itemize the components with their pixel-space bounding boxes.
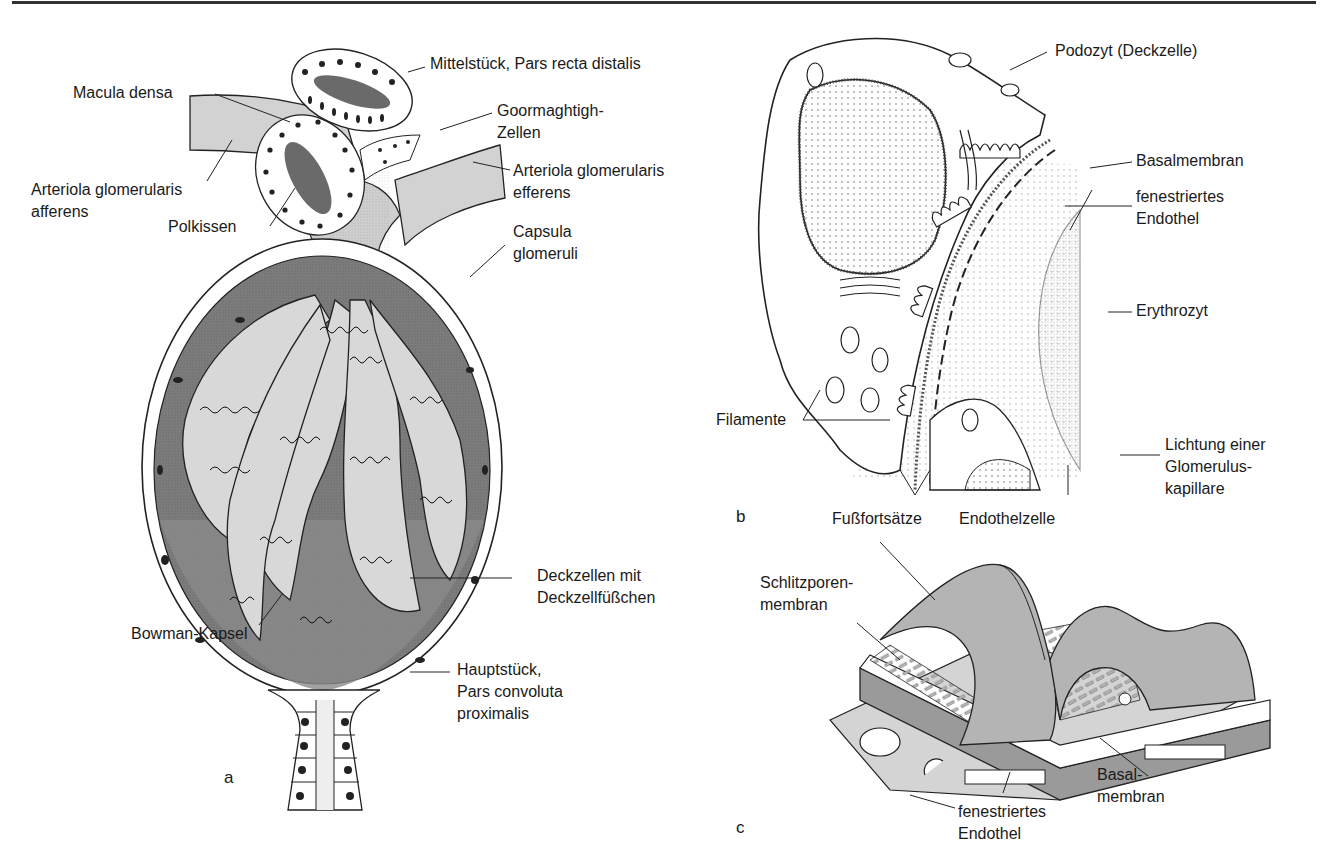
panel-c-filtration-barrier bbox=[830, 542, 1270, 808]
label-endothelzelle: Endothelzelle bbox=[959, 510, 1055, 528]
label-capsula-line2: glomeruli bbox=[513, 245, 578, 263]
label-efferens-line2: efferens bbox=[513, 184, 571, 202]
label-afferens-line1: Arteriola glomerularis bbox=[31, 181, 182, 199]
label-fenestriert-b-line1: fenestriertes bbox=[1136, 188, 1224, 206]
figure-artwork bbox=[0, 0, 1328, 861]
label-hauptstueck-line1: Hauptstück, bbox=[457, 661, 541, 679]
label-afferens-line2: afferens bbox=[31, 203, 89, 221]
label-bowman-kapsel: Bowman-Kapsel bbox=[131, 625, 248, 643]
label-schlitzporen-line2: membran bbox=[760, 596, 828, 614]
label-goormaghtigh-line1: Goormaghtigh- bbox=[497, 102, 604, 120]
label-lichtung-line2: Glomerulus- bbox=[1165, 458, 1252, 476]
panel-b-podocyte bbox=[759, 39, 1160, 495]
panel-letter-c: c bbox=[736, 818, 745, 838]
label-fenestriert-c-line1: fenestriertes bbox=[958, 803, 1046, 821]
label-capsula-line1: Capsula bbox=[513, 223, 572, 241]
label-filamente: Filamente bbox=[716, 411, 786, 429]
label-hauptstueck-line3: proximalis bbox=[457, 705, 529, 723]
label-lichtung-line3: kapillare bbox=[1165, 480, 1225, 498]
label-polkissen: Polkissen bbox=[168, 218, 236, 236]
label-mittelstueck: Mittelstück, Pars recta distalis bbox=[430, 55, 641, 73]
label-fenestriert-b-line2: Endothel bbox=[1136, 210, 1199, 228]
label-macula-densa: Macula densa bbox=[73, 84, 173, 102]
label-basalmembran: Basalmembran bbox=[1136, 152, 1244, 170]
label-hauptstueck-line2: Pars convoluta bbox=[457, 683, 563, 701]
label-deckzellen-line1: Deckzellen mit bbox=[537, 567, 641, 585]
label-podozyt: Podozyt (Deckzelle) bbox=[1055, 42, 1197, 60]
label-basal-c-line2: membran bbox=[1097, 788, 1165, 806]
panel-letter-a: a bbox=[224, 768, 233, 788]
label-efferens-line1: Arteriola glomerularis bbox=[513, 162, 664, 180]
label-lichtung-line1: Lichtung einer bbox=[1165, 436, 1266, 454]
label-deckzellen-line2: Deckzellfüßchen bbox=[537, 589, 655, 607]
panel-letter-b: b bbox=[736, 507, 745, 527]
label-basal-c-line1: Basal- bbox=[1097, 766, 1142, 784]
label-fussfortsaetze: Fußfortsätze bbox=[832, 510, 922, 528]
label-erythrozyt: Erythrozyt bbox=[1136, 302, 1208, 320]
label-fenestriert-c-line2: Endothel bbox=[958, 825, 1021, 843]
label-schlitzporen-line1: Schlitzporen- bbox=[760, 574, 853, 592]
label-goormaghtigh-line2: Zellen bbox=[497, 124, 541, 142]
